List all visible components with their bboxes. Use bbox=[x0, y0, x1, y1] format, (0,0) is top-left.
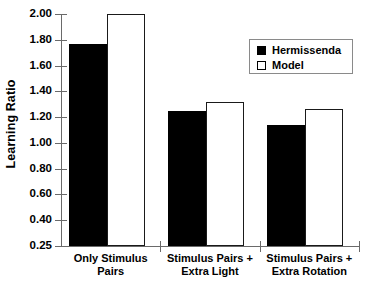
bar bbox=[107, 14, 145, 246]
bar bbox=[168, 111, 206, 246]
y-axis-tick-label: 1.00 bbox=[16, 137, 52, 149]
bar bbox=[267, 125, 305, 246]
x-axis-category-label-line: Stimulus Pairs + bbox=[160, 252, 259, 265]
bar bbox=[305, 109, 343, 246]
y-axis-tick-label: 1.60 bbox=[16, 60, 52, 72]
legend-item-hermissenda: Hermissenda bbox=[257, 44, 352, 57]
legend-label: Model bbox=[272, 60, 304, 71]
category-separator-tick bbox=[359, 241, 360, 252]
legend-label: Hermissenda bbox=[272, 45, 341, 56]
bar-chart: Learning Ratio 2.001.801.601.401.201.000… bbox=[0, 0, 367, 284]
bar bbox=[69, 44, 107, 246]
x-axis-category-label-line: Only Stimulus Pairs bbox=[61, 252, 160, 277]
category-separator-tick bbox=[160, 241, 161, 252]
y-axis-tick-label: 1.40 bbox=[16, 85, 52, 97]
y-axis-tick bbox=[55, 246, 67, 247]
x-axis-category-label: Only Stimulus Pairs bbox=[61, 252, 160, 277]
category-separator-tick bbox=[260, 241, 261, 252]
y-axis-tick-label: 2.00 bbox=[16, 8, 52, 20]
x-axis-category-label: Stimulus Pairs +Extra Light bbox=[160, 252, 259, 277]
x-axis-category-label-line: Extra Rotation bbox=[260, 265, 359, 278]
legend: Hermissenda Model bbox=[249, 39, 353, 74]
x-axis-category-label: Stimulus Pairs +Extra Rotation bbox=[260, 252, 359, 277]
y-axis-tick-label: 0.25 bbox=[16, 240, 52, 252]
x-axis-category-label-line: Extra Light bbox=[160, 265, 259, 278]
x-axis-category-label-line: Stimulus Pairs + bbox=[260, 252, 359, 265]
x-axis-line bbox=[61, 246, 359, 247]
legend-swatch-open-icon bbox=[257, 61, 266, 70]
bar bbox=[206, 102, 244, 246]
y-axis-tick-labels: 2.001.801.601.401.201.000.800.600.400.25 bbox=[12, 0, 52, 284]
y-axis-tick-label: 0.40 bbox=[16, 214, 52, 226]
legend-item-model: Model bbox=[257, 59, 352, 72]
y-axis-tick-label: 0.60 bbox=[16, 188, 52, 200]
y-axis-tick-label: 1.20 bbox=[16, 111, 52, 123]
y-axis-tick-label: 0.80 bbox=[16, 163, 52, 175]
y-axis-tick-label: 1.80 bbox=[16, 34, 52, 46]
legend-swatch-filled-icon bbox=[257, 46, 266, 55]
